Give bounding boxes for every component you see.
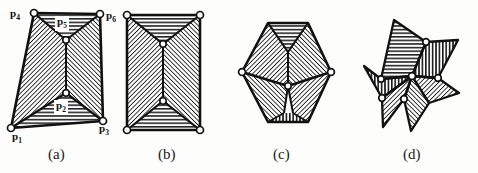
vertex-d-center[interactable] <box>409 73 416 80</box>
caption-b: (b) <box>158 146 176 163</box>
label-p6: p6 <box>106 9 116 24</box>
figure-container: p4 p5 p6 p2 p3 p1 (a) (b) (c) (d) <box>0 0 478 173</box>
panel-b <box>124 12 204 134</box>
vertex-p5[interactable] <box>63 37 69 43</box>
vertex-p6[interactable] <box>97 11 104 18</box>
panel-d <box>364 20 459 131</box>
label-p1: p1 <box>12 130 22 145</box>
vertex-c-right[interactable] <box>328 69 335 76</box>
vertex-d-upper-right[interactable] <box>423 39 430 46</box>
panel-c <box>239 23 335 122</box>
vertex-p2[interactable] <box>63 90 69 96</box>
vertex-d-bottom[interactable] <box>401 96 408 103</box>
label-p3: p3 <box>99 122 109 137</box>
vertex-d-right[interactable] <box>435 75 442 82</box>
label-p5: p5 <box>55 16 69 31</box>
vertex-b-tr[interactable] <box>197 12 204 19</box>
label-p2: p2 <box>54 100 68 115</box>
vertex-p4[interactable] <box>31 10 38 17</box>
vertex-b-br[interactable] <box>197 127 204 134</box>
caption-c: (c) <box>273 146 290 163</box>
caption-d: (d) <box>403 146 421 163</box>
vertex-b-bl[interactable] <box>124 127 131 134</box>
vertex-d-left[interactable] <box>379 95 386 102</box>
vertex-b-bottom-notch[interactable] <box>160 98 166 104</box>
label-p4: p4 <box>10 7 20 22</box>
vertex-d-upper-left[interactable] <box>378 76 384 82</box>
vertex-c-left[interactable] <box>239 69 246 76</box>
vertex-c-center[interactable] <box>285 83 291 89</box>
vertex-b-tl[interactable] <box>124 12 131 19</box>
vertex-b-top-notch[interactable] <box>160 41 166 47</box>
caption-a: (a) <box>48 146 65 163</box>
